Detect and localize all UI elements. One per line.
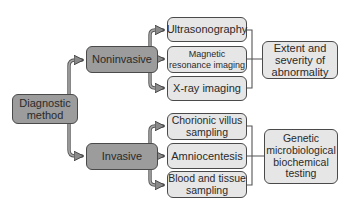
blood-tissue-node: Blood and tissue sampling [167, 171, 247, 198]
chorionic-villus-node: Chorionic villus sampling [167, 113, 247, 140]
mri-node: Magnetic resonance imaging [167, 46, 247, 73]
ultrasonography-node: Ultrasonography [167, 17, 247, 42]
diagnostic-method-node: Diagnostic method [12, 94, 78, 124]
xray-node: X-ray imaging [167, 76, 247, 101]
noninvasive-node: Noninvasive [86, 46, 158, 73]
extent-severity-node: Extent and severity of abnormality [262, 41, 338, 79]
amniocentesis-node: Amniocentesis [167, 143, 247, 169]
invasive-node: Invasive [86, 143, 158, 170]
genetic-testing-node: Genetic microbiological biochemical test… [264, 129, 338, 184]
